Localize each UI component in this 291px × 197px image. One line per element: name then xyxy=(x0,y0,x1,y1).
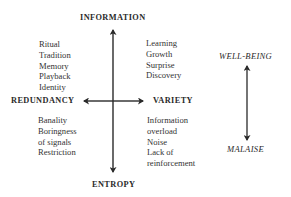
list-item: Banality xyxy=(38,115,77,126)
list-item: Information xyxy=(147,115,195,126)
axis-label-variety: VARIETY xyxy=(153,97,193,105)
list-item: Memory xyxy=(39,61,71,72)
list-item: Identity xyxy=(39,82,71,93)
list-item: Discovery xyxy=(146,70,181,81)
axis-label-entropy: ENTROPY xyxy=(92,181,135,189)
list-item: Restriction xyxy=(38,147,77,158)
list-item: Playback xyxy=(39,71,71,82)
list-item: of signals xyxy=(38,137,77,148)
quadrant-top-right: Learning Growth Surprise Discovery xyxy=(146,38,181,81)
list-item: Surprise xyxy=(146,60,181,71)
scale-label-well-being: WELL-BEING xyxy=(219,52,272,61)
list-item: Boringness xyxy=(38,126,77,137)
axis-label-redundancy: REDUNDANCY xyxy=(11,97,74,105)
quadrant-top-left: Ritual Tradition Memory Playback Identit… xyxy=(39,39,71,93)
quadrant-bottom-left: Banality Boringness of signals Restricti… xyxy=(38,115,77,158)
quadrant-bottom-right: Information overload Noise Lack of reinf… xyxy=(147,115,195,169)
axis-label-information: INFORMATION xyxy=(80,14,146,22)
list-item: Noise xyxy=(147,137,195,148)
scale-label-malaise: MALAISE xyxy=(227,145,264,154)
list-item: Learning xyxy=(146,38,181,49)
list-item: Tradition xyxy=(39,50,71,61)
list-item: Growth xyxy=(146,49,181,60)
list-item: reinforcement xyxy=(147,158,195,169)
list-item: Ritual xyxy=(39,39,71,50)
list-item: Lack of xyxy=(147,147,195,158)
list-item: overload xyxy=(147,126,195,137)
